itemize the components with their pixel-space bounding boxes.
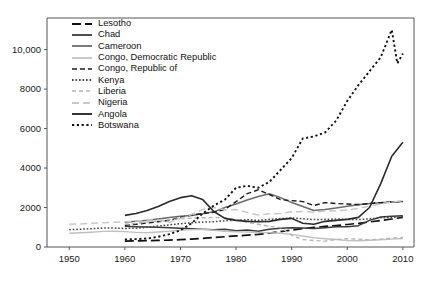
legend-label-congo-republic-of: Congo, Republic of xyxy=(98,63,177,74)
svg-text:1990: 1990 xyxy=(281,253,302,264)
legend-label-cameroon: Cameroon xyxy=(98,41,141,52)
legend-label-liberia: Liberia xyxy=(98,86,126,97)
chart-legend: Lesotho Chad Cameroon Congo, Democratic … xyxy=(72,18,272,131)
legend-item-cameroon: Cameroon xyxy=(72,41,272,52)
svg-text:2010: 2010 xyxy=(392,253,413,264)
svg-text:1960: 1960 xyxy=(114,253,135,264)
legend-swatch-congo-democratic-republic xyxy=(72,53,92,63)
legend-label-botswana: Botswana xyxy=(98,120,139,131)
series-line-angola xyxy=(125,142,403,224)
legend-item-kenya: Kenya xyxy=(72,74,272,85)
legend-item-lesotho: Lesotho xyxy=(72,18,272,29)
legend-item-congo-republic-of: Congo, Republic of xyxy=(72,63,272,74)
legend-label-chad: Chad xyxy=(98,29,120,40)
chart-figure: 0200040006000800010,000 1950196019701980… xyxy=(0,0,427,282)
y-axis-tick-labels: 0200040006000800010,000 xyxy=(12,44,41,252)
legend-item-botswana: Botswana xyxy=(72,120,272,131)
svg-text:4000: 4000 xyxy=(20,162,41,173)
svg-text:1970: 1970 xyxy=(170,253,191,264)
legend-item-liberia: Liberia xyxy=(72,86,272,97)
svg-text:0: 0 xyxy=(36,241,41,252)
legend-label-congo-democratic-republic: Congo, Democratic Republic xyxy=(98,52,216,63)
legend-swatch-chad xyxy=(72,30,92,40)
legend-item-angola: Angola xyxy=(72,108,272,119)
legend-swatch-nigeria xyxy=(72,98,92,108)
svg-text:2000: 2000 xyxy=(337,253,358,264)
svg-text:1980: 1980 xyxy=(225,253,246,264)
x-axis-tick-labels: 1950196019701980199020002010 xyxy=(59,253,414,264)
legend-swatch-botswana xyxy=(72,120,92,130)
legend-swatch-kenya xyxy=(72,75,92,85)
legend-swatch-congo-republic-of xyxy=(72,64,92,74)
svg-text:8000: 8000 xyxy=(20,83,41,94)
legend-swatch-cameroon xyxy=(72,41,92,51)
legend-label-kenya: Kenya xyxy=(98,75,124,86)
legend-item-congo-democratic-republic: Congo, Democratic Republic xyxy=(72,52,272,63)
svg-text:10,000: 10,000 xyxy=(12,44,41,55)
legend-label-angola: Angola xyxy=(98,109,127,120)
svg-text:2000: 2000 xyxy=(20,202,41,213)
legend-swatch-angola xyxy=(72,109,92,119)
svg-text:6000: 6000 xyxy=(20,123,41,134)
legend-label-lesotho: Lesotho xyxy=(98,18,131,29)
legend-item-chad: Chad xyxy=(72,29,272,40)
svg-text:1950: 1950 xyxy=(59,253,80,264)
legend-swatch-liberia xyxy=(72,86,92,96)
legend-swatch-lesotho xyxy=(72,19,92,29)
series-line-cameroon xyxy=(125,194,403,223)
legend-label-nigeria: Nigeria xyxy=(98,97,127,108)
legend-item-nigeria: Nigeria xyxy=(72,97,272,108)
